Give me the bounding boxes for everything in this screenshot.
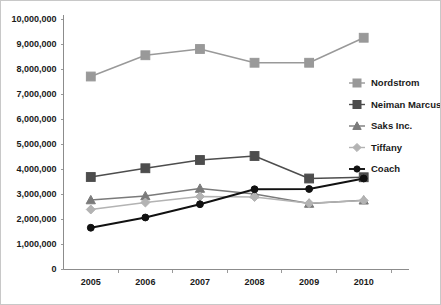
data-point-marker	[250, 58, 259, 67]
data-point-marker	[359, 33, 368, 42]
legend-item-label: Nordstrom	[371, 77, 420, 88]
legend-item-tiffany[interactable]: Tiffany	[349, 142, 403, 153]
legend-swatch-marker	[353, 143, 361, 151]
data-point-marker	[305, 58, 314, 67]
series-neiman-marcus	[86, 152, 368, 183]
series-line	[91, 156, 364, 179]
y-axis-tick-label: 4,000,000	[16, 164, 56, 174]
x-axis-tick-label: 2010	[354, 277, 374, 287]
y-axis-tick-label: 1,000,000	[16, 239, 56, 249]
y-axis-tick-label: 8,000,000	[16, 64, 56, 74]
legend-item-coach[interactable]: Coach	[349, 163, 400, 174]
chart-legend: NordstromNeiman MarcusSaks Inc.TiffanyCo…	[349, 77, 441, 174]
x-axis-tick-label: 2009	[299, 277, 319, 287]
legend-swatch-marker	[353, 101, 361, 109]
data-point-marker	[86, 72, 95, 81]
series-line	[91, 197, 364, 210]
legend-item-label: Tiffany	[371, 142, 403, 153]
series-nordstrom	[86, 33, 368, 81]
legend-item-label: Neiman Marcus	[371, 99, 441, 110]
legend-item-saks-inc[interactable]: Saks Inc.	[349, 120, 412, 131]
data-point-marker	[86, 205, 95, 214]
legend-swatch-marker	[354, 166, 360, 172]
series-saks-inc	[86, 184, 368, 207]
data-point-marker	[196, 156, 205, 165]
x-axis-tick-group: 200520062007200820092010	[81, 269, 391, 287]
y-axis-tick-label: 2,000,000	[16, 214, 56, 224]
y-axis-tick-label: 10,000,000	[11, 14, 56, 24]
line-chart-figure: 01,000,0002,000,0003,000,0004,000,0005,0…	[0, 0, 441, 305]
data-series-group	[86, 33, 368, 231]
y-axis-tick-label: 5,000,000	[16, 139, 56, 149]
data-point-marker	[195, 192, 204, 201]
x-axis-tick-label: 2008	[245, 277, 265, 287]
legend-item-nordstrom[interactable]: Nordstrom	[349, 77, 420, 88]
data-point-marker	[141, 164, 150, 173]
legend-item-label: Saks Inc.	[371, 120, 412, 131]
data-point-marker	[196, 45, 205, 54]
legend-item-neiman-marcus[interactable]: Neiman Marcus	[349, 99, 441, 110]
data-point-marker	[306, 186, 313, 193]
x-axis-tick-label: 2007	[190, 277, 210, 287]
y-axis-tick-label: 0	[51, 264, 56, 274]
y-axis-tick-label: 6,000,000	[16, 114, 56, 124]
data-point-marker	[195, 184, 204, 192]
data-point-marker	[87, 224, 94, 231]
y-axis-tick-label: 9,000,000	[16, 39, 56, 49]
y-axis-tick-group: 01,000,0002,000,0003,000,0004,000,0005,0…	[11, 14, 63, 274]
x-axis-tick-label: 2005	[81, 277, 101, 287]
y-axis-tick-label: 3,000,000	[16, 189, 56, 199]
series-line	[91, 38, 364, 77]
chart-canvas: 01,000,0002,000,0003,000,0004,000,0005,0…	[1, 1, 441, 305]
data-point-marker	[86, 173, 95, 182]
data-point-marker	[141, 51, 150, 60]
data-point-marker	[360, 175, 367, 182]
data-point-marker	[251, 186, 258, 193]
data-point-marker	[250, 152, 259, 161]
data-point-marker	[142, 214, 149, 221]
y-axis-tick-label: 7,000,000	[16, 89, 56, 99]
legend-item-label: Coach	[371, 163, 400, 174]
series-tiffany	[86, 192, 368, 214]
data-point-marker	[305, 174, 314, 183]
data-point-marker	[197, 201, 204, 208]
legend-swatch-marker	[353, 79, 361, 87]
x-axis-tick-label: 2006	[135, 277, 155, 287]
